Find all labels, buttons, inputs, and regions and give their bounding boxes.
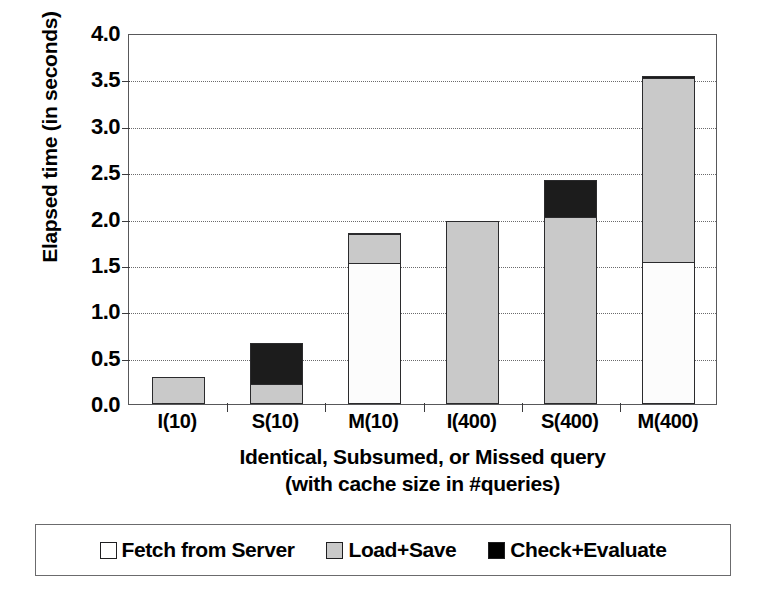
gridline (129, 128, 716, 129)
bar-segment-fetch-from-server (642, 262, 695, 404)
legend-item: Fetch from Server (100, 538, 295, 562)
y-axis-tick-label: 2.5 (38, 160, 120, 186)
x-axis-tick-label: S(10) (252, 410, 299, 433)
y-axis-tick-mark (122, 81, 130, 82)
bar-segment-load-save (250, 384, 303, 404)
bar-m400 (642, 73, 695, 404)
bar-i10 (152, 377, 205, 404)
bar-m10 (348, 230, 401, 404)
y-axis-tick-label: 3.5 (38, 67, 120, 93)
bar-segment-load-save (152, 377, 205, 404)
x-axis-title: Identical, Subsumed, or Missed query (wi… (128, 444, 717, 498)
legend-swatch-check (488, 542, 505, 559)
y-axis-tick-mark (122, 128, 130, 129)
bar-segment-load-save (642, 78, 695, 264)
y-axis-tick-label: 0.5 (38, 346, 120, 372)
gridline (129, 81, 716, 82)
chart-legend: Fetch from ServerLoad+SaveCheck+Evaluate (35, 524, 731, 576)
gridline (129, 313, 716, 314)
gridline (129, 360, 716, 361)
y-axis-tick-mark (122, 267, 130, 268)
y-axis-tick-mark (122, 221, 130, 222)
y-axis-tick-label: 3.0 (38, 114, 120, 140)
gridline (129, 221, 716, 222)
x-axis-tick-label: I(10) (158, 410, 197, 433)
bar-segment-load-save (348, 234, 401, 265)
y-axis-tick-label: 1.0 (38, 299, 120, 325)
y-axis-tick-mark (122, 174, 130, 175)
legend-item: Check+Evaluate (488, 538, 666, 562)
gridline (129, 267, 716, 268)
x-axis-tick-label: I(400) (447, 410, 497, 433)
plot-area (128, 34, 717, 405)
y-axis-tick-label: 4.0 (38, 21, 120, 47)
x-axis-title-line-2: (with cache size in #queries) (128, 471, 717, 498)
bar-segment-fetch-from-server (348, 263, 401, 404)
bar-segment-load-save (446, 221, 499, 404)
bar-segment-check-evaluate (544, 180, 597, 218)
y-axis-tick-labels: 0.00.51.01.52.02.53.03.54.0 (38, 34, 120, 405)
legend-item: Load+Save (326, 538, 456, 562)
legend-label: Fetch from Server (122, 538, 295, 562)
bar-segment-check-evaluate (250, 343, 303, 386)
x-axis-title-line-1: Identical, Subsumed, or Missed query (239, 445, 605, 468)
bar-i400 (446, 219, 499, 404)
chart-figure: Elapsed time (in seconds) 0.00.51.01.52.… (0, 0, 764, 613)
y-axis-tick-label: 0.0 (38, 392, 120, 418)
x-axis-tick-label: M(400) (637, 410, 698, 433)
legend-label: Load+Save (348, 538, 456, 562)
bar-s10 (250, 341, 303, 404)
x-axis-tick-labels: I(10)S(10)M(10)I(400)S(400)M(400) (128, 410, 717, 440)
x-axis-tick-label: S(400) (541, 410, 599, 433)
legend-swatch-load (326, 542, 343, 559)
bar-segment-load-save (544, 217, 597, 404)
bar-s400 (544, 179, 597, 404)
x-axis-tick-label: M(10) (348, 410, 398, 433)
y-axis-tick-mark (122, 360, 130, 361)
plot-inner (129, 35, 716, 404)
legend-swatch-fetch (100, 542, 117, 559)
y-axis-tick-label: 1.5 (38, 253, 120, 279)
legend-label: Check+Evaluate (510, 538, 666, 562)
gridline (129, 174, 716, 175)
y-axis-tick-label: 2.0 (38, 207, 120, 233)
y-axis-tick-mark (122, 313, 130, 314)
